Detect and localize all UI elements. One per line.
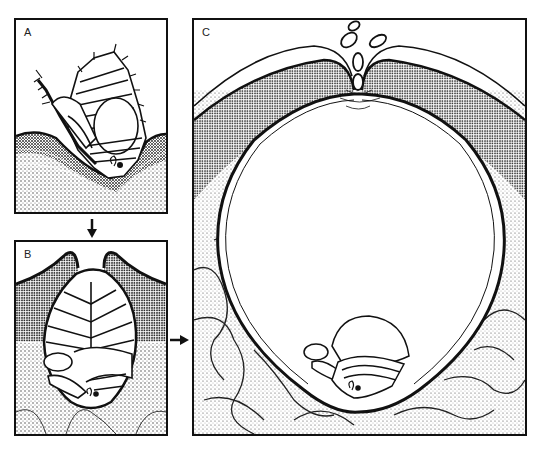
panel-b: B (14, 240, 168, 436)
panel-c: C (192, 18, 527, 436)
panel-label-c: C (202, 26, 210, 38)
panel-a-illustration (16, 20, 166, 212)
arrow-right-icon (170, 334, 190, 346)
panel-label-a: A (24, 26, 31, 38)
panel-c-illustration (194, 20, 525, 434)
panel-a: A (14, 18, 168, 214)
panel-label-b: B (24, 248, 31, 260)
panel-b-illustration (16, 242, 166, 434)
arrow-down-icon (86, 219, 98, 239)
